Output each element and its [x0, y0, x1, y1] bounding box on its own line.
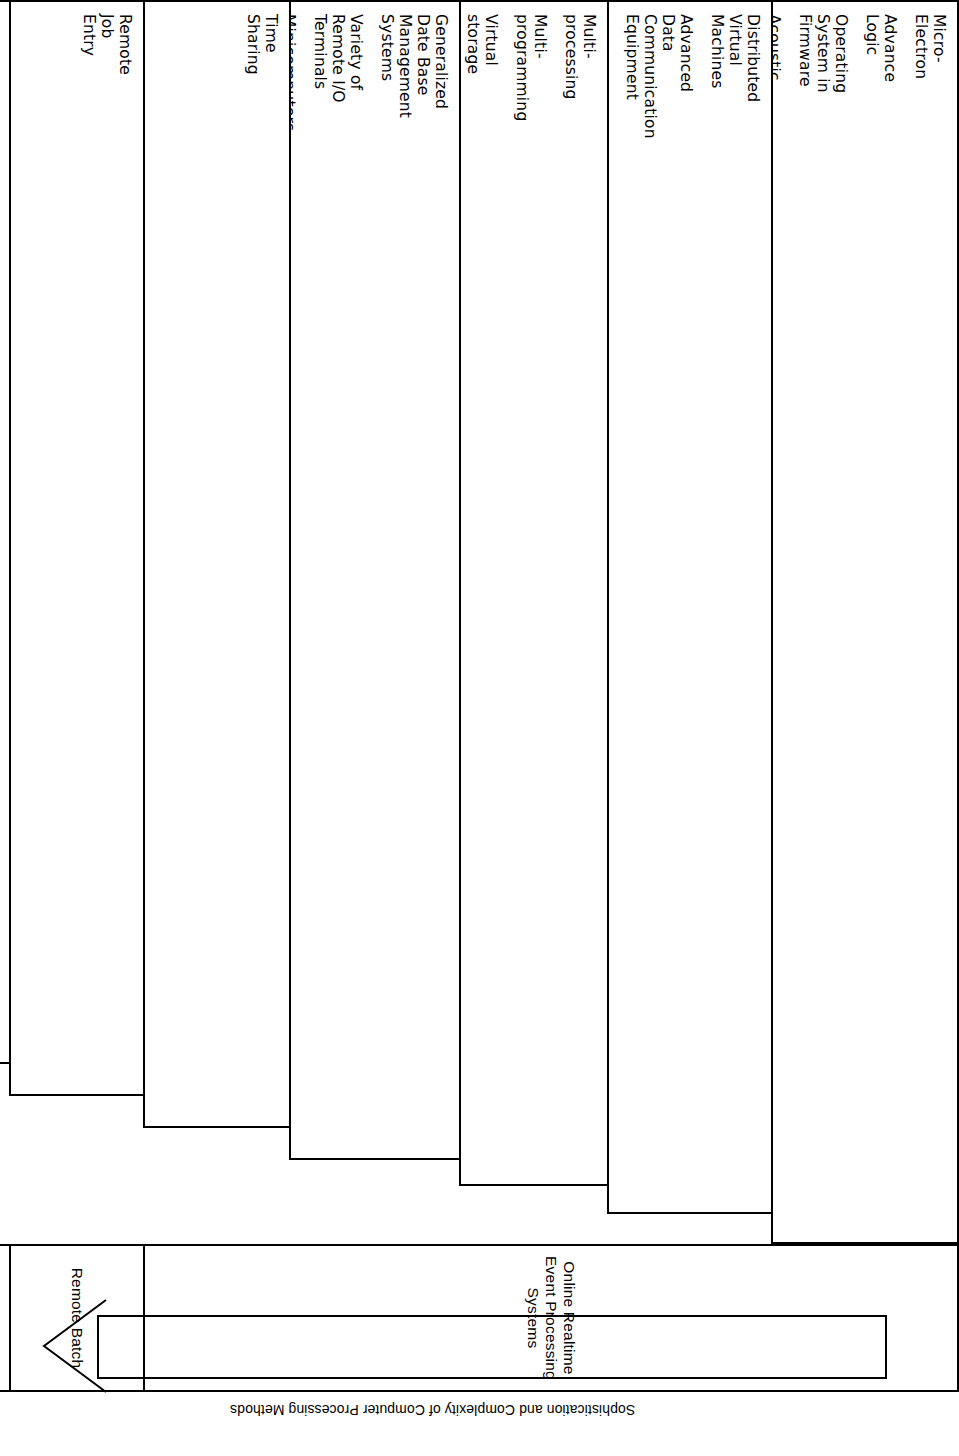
band-box-local-batch-systems[interactable]: Local Batch Systems	[0, 1244, 11, 1392]
step-item-list: Time Sharing	[243, 14, 279, 1116]
step-item: Remote Job Entry	[79, 14, 133, 1084]
figure-canvas: Micro- Electron Advance Logic Operating …	[0, 0, 959, 1456]
step-item: Variety of Remote I/O Terminals	[310, 14, 364, 1148]
step-item: Virtual storage	[463, 14, 499, 1174]
sophistication-complexity-label: Sophistication and Complexity of Compute…	[230, 1402, 635, 1418]
step-item: Multi- processing	[561, 14, 597, 1174]
step-box-micro-electron-future[interactable]: Micro- Electron Advance Logic Operating …	[771, 0, 959, 1244]
step-box-multi-programming-batch[interactable]: Multi- Programming Batch	[0, 0, 11, 1064]
step-item: Advance Logic	[862, 14, 898, 1232]
step-box-distributed-virtual-machines[interactable]: Distributed Virtual Machines Advanced Da…	[607, 0, 773, 1214]
step-item: Advanced Data Communication Equipment	[622, 14, 694, 1202]
step-item: Micro- Electron	[911, 14, 947, 1232]
step-box-database-and-terminals[interactable]: Generalized Date Base Management Systems…	[289, 0, 461, 1160]
step-item-list: Distributed Virtual Machines Advanced Da…	[622, 14, 761, 1202]
step-item: Time Sharing	[243, 14, 279, 1116]
step-box-remote-job-entry[interactable]: Remote Job Entry	[9, 0, 145, 1096]
step-item-list: Remote Job Entry	[79, 14, 133, 1084]
sophistication-complexity-arrow	[34, 1294, 904, 1398]
step-item: Operating System in Firmware	[795, 14, 849, 1232]
step-item: Distributed Virtual Machines	[707, 14, 761, 1202]
step-box-multiprocessing-virtual-storage[interactable]: Multi- processing Multi- programming Vir…	[459, 0, 609, 1186]
step-item: Multi- programming	[512, 14, 548, 1174]
step-item: Generalized Date Base Management Systems	[377, 14, 449, 1148]
step-box-time-sharing[interactable]: Time Sharing	[143, 0, 291, 1128]
